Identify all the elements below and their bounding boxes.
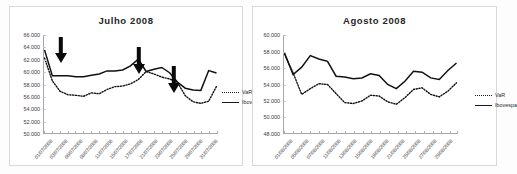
y-tick-agosto-54000: 54.000 xyxy=(264,82,281,88)
y-tick-agosto-50000: 50.000 xyxy=(264,114,281,120)
legend-label-var-agosto: VaR xyxy=(495,92,505,98)
annotation-arrow-1 xyxy=(54,37,67,63)
annotation-arrow-2 xyxy=(132,47,145,75)
y-tick-julho-54000: 54.000 xyxy=(24,106,41,112)
y-tick-julho-62000: 62.000 xyxy=(24,57,41,63)
y-tick-agosto-52000: 52.000 xyxy=(264,98,281,104)
y-tick-julho-50000: 50.000 xyxy=(24,131,41,137)
legend-agosto: VaR Ibovespa xyxy=(475,90,517,110)
y-tick-julho-56000: 56.000 xyxy=(24,94,41,100)
solid-line-swatch-icon xyxy=(222,102,239,103)
series-line-ibovespa-agosto xyxy=(285,53,457,88)
y-tick-julho-52000: 52.000 xyxy=(24,119,41,125)
series-line-ibovespa-julho xyxy=(45,50,217,91)
plot-area-julho: 66.000 64.000 62.000 60.000 58.000 56.00… xyxy=(43,35,218,134)
plot-area-agosto: 60.000 58.000 56.000 54.000 52.000 50.00… xyxy=(283,35,458,134)
solid-line-swatch-icon xyxy=(475,105,492,106)
chart-title-julho: Julho 2008 xyxy=(10,15,242,26)
chart-title-agosto: Agosto 2008 xyxy=(253,15,496,26)
legend-item-ibovespa-agosto: Ibovespa xyxy=(475,100,517,110)
y-tick-julho-60000: 60.000 xyxy=(24,69,41,75)
y-tick-julho-58000: 58.000 xyxy=(24,82,41,88)
series-lines-agosto xyxy=(283,35,458,134)
y-tick-agosto-48000: 48.000 xyxy=(264,131,281,137)
dotted-line-swatch-icon xyxy=(222,92,239,93)
y-tick-julho-66000: 66.000 xyxy=(24,32,41,38)
chart-julho-2008: Julho 2008 66.000 64.000 62.000 60.000 5… xyxy=(9,6,243,166)
series-line-var-julho xyxy=(45,58,217,103)
series-lines-julho xyxy=(43,35,218,134)
y-tick-agosto-56000: 56.000 xyxy=(264,65,281,71)
annotation-arrow-3 xyxy=(167,66,180,94)
legend-item-var-agosto: VaR xyxy=(475,90,517,100)
y-tick-julho-64000: 64.000 xyxy=(24,44,41,50)
legend-label-var-julho: VaR xyxy=(242,89,252,95)
series-line-var-agosto xyxy=(285,54,457,104)
y-tick-agosto-58000: 58.000 xyxy=(264,49,281,55)
dotted-line-swatch-icon xyxy=(475,95,492,96)
y-tick-agosto-60000: 60.000 xyxy=(264,32,281,38)
chart-agosto-2008: Agosto 2008 60.000 58.000 56.000 54.000 … xyxy=(252,6,497,166)
legend-label-ibovespa-agosto: Ibovespa xyxy=(495,102,517,108)
